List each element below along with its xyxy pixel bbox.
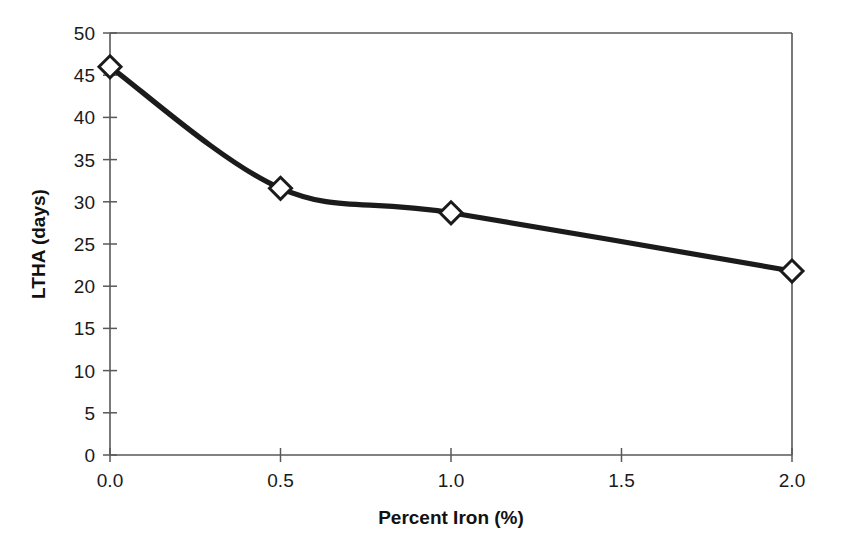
y-tick-label-30: 30 bbox=[74, 192, 95, 213]
y-tick-label-45: 45 bbox=[74, 65, 95, 86]
y-tick-label-40: 40 bbox=[74, 107, 95, 128]
x-tick-label-0.5: 0.5 bbox=[267, 470, 293, 491]
y-tick-label-0: 0 bbox=[84, 445, 95, 466]
x-tick-label-1.5: 1.5 bbox=[608, 470, 634, 491]
y-tick-label-20: 20 bbox=[74, 276, 95, 297]
line-chart: 0 5 10 15 20 25 30 35 40 45 50 0.0 0.5 1… bbox=[0, 0, 845, 550]
x-axis-title: Percent Iron (%) bbox=[378, 507, 524, 528]
y-axis-title: LTHA (days) bbox=[28, 189, 49, 299]
y-tick-label-35: 35 bbox=[74, 150, 95, 171]
chart-container: 0 5 10 15 20 25 30 35 40 45 50 0.0 0.5 1… bbox=[0, 0, 845, 550]
x-tick-label-0.0: 0.0 bbox=[97, 470, 123, 491]
y-tick-label-15: 15 bbox=[74, 318, 95, 339]
y-tick-label-25: 25 bbox=[74, 234, 95, 255]
x-tick-label-2.0: 2.0 bbox=[779, 470, 805, 491]
x-tick-label-1.0: 1.0 bbox=[438, 470, 464, 491]
y-tick-label-10: 10 bbox=[74, 361, 95, 382]
y-tick-label-5: 5 bbox=[84, 403, 95, 424]
y-tick-label-50: 50 bbox=[74, 23, 95, 44]
